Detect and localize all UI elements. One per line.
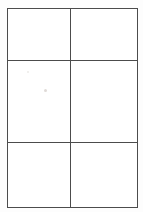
table-cell-r3c2[interactable] <box>71 143 138 208</box>
grid-table <box>7 8 138 208</box>
page-canvas <box>0 0 143 212</box>
table-cell-r1c1[interactable] <box>8 9 71 61</box>
table-cell-r2c2[interactable] <box>71 61 138 143</box>
table-cell-r2c1[interactable] <box>8 61 71 143</box>
cell-text-r3c1 <box>8 143 70 145</box>
cell-text-r3c2 <box>71 143 137 145</box>
table-cell-r1c2[interactable] <box>71 9 138 61</box>
table-row <box>8 9 138 61</box>
table-row <box>8 61 138 143</box>
table-row <box>8 143 138 208</box>
cell-text-r2c1 <box>8 61 70 63</box>
cell-text-r1c1 <box>8 9 70 11</box>
cell-text-r2c2 <box>71 61 137 63</box>
cell-text-r1c2 <box>71 9 137 11</box>
table-cell-r3c1[interactable] <box>8 143 71 208</box>
